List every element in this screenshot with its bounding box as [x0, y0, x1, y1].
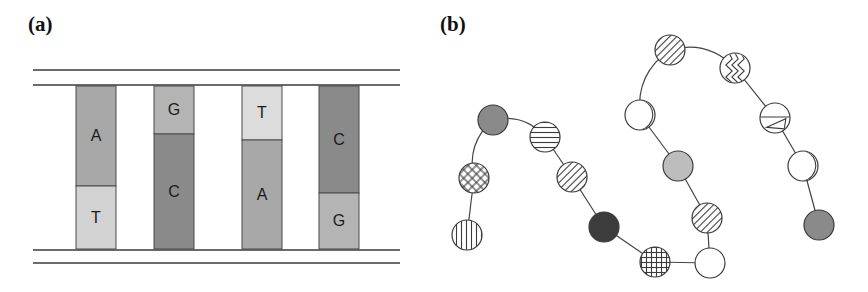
residue-circle-empty: [695, 248, 725, 278]
residue-node-13: [720, 53, 750, 83]
residue-node-11: [625, 100, 655, 130]
residue-circle-solid-gray: [478, 105, 508, 135]
panel-b-canvas: [434, 0, 868, 292]
residue-node-7: [640, 247, 670, 277]
residue-circle-diagonal-stripes: [655, 35, 685, 65]
base-letter-upper-3: T: [242, 105, 282, 121]
residue-circle-vertical-stripes: [452, 220, 482, 250]
figure-root: (a) ATGCTACG (b): [0, 0, 868, 292]
residue-node-14: [760, 103, 790, 133]
residue-circle-solid-dark: [589, 212, 619, 242]
residue-node-10: [663, 151, 693, 181]
residue-circle-solid-light-gray: [663, 151, 693, 181]
residue-node-4: [530, 122, 560, 152]
base-letter-lower-3: A: [242, 187, 282, 203]
residue-circle-arc-segment: [788, 151, 818, 181]
residue-circle-arc-segment: [625, 100, 655, 130]
residue-node-6: [589, 212, 619, 242]
residue-node-5: [557, 162, 587, 192]
residue-node-9: [692, 203, 722, 233]
residue-node-2: [459, 163, 489, 193]
panel-a-dna-schematic: (a) ATGCTACG: [0, 0, 434, 292]
residue-circle-horizontal-stripes: [530, 122, 560, 152]
residue-node-1: [478, 105, 508, 135]
residue-circle-diagonal-stripes: [557, 162, 587, 192]
bond-layer: [467, 47, 819, 263]
residue-circle-solid-gray: [804, 210, 834, 240]
base-letter-upper-2: G: [154, 102, 194, 118]
base-letter-upper-1: A: [76, 128, 116, 144]
residue-node-16: [804, 210, 834, 240]
residue-circle-square-crosshatch: [640, 247, 670, 277]
base-letter-lower-1: T: [76, 210, 116, 226]
panel-a-canvas: [0, 0, 434, 292]
residue-circle-diagonal-stripes: [692, 203, 722, 233]
base-letter-upper-4: C: [319, 132, 359, 148]
panel-b-protein-chain-schematic: (b): [434, 0, 868, 292]
residue-circle-diagonal-crosshatch: [459, 163, 489, 193]
residue-node-15: [788, 151, 818, 181]
base-letter-lower-2: C: [154, 184, 194, 200]
base-letter-lower-4: G: [319, 213, 359, 229]
residue-node-12: [655, 35, 685, 65]
residue-node-8: [695, 248, 725, 278]
residue-node-3: [452, 220, 482, 250]
